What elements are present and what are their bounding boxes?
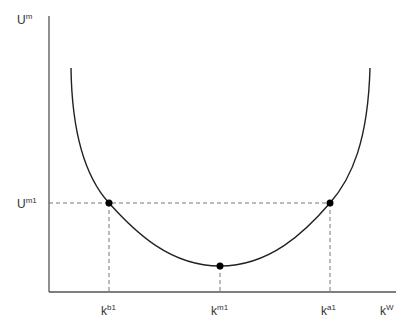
diagram-canvas	[0, 0, 407, 326]
x-tick-sup: b1	[107, 303, 116, 312]
y-tick-um1: Um1	[17, 197, 37, 210]
x-axis-label-sup: W	[386, 303, 394, 312]
x-tick-kb1: kb1	[101, 304, 116, 317]
x-tick-ka1: ka1	[321, 304, 336, 317]
x-tick-sup: a1	[327, 303, 336, 312]
y-tick-base: U	[17, 197, 26, 211]
point-m1	[217, 263, 224, 270]
x-tick-km1: km1	[211, 304, 228, 317]
x-axis-label: kW	[380, 304, 394, 317]
point-b1	[106, 200, 113, 207]
y-axis-label-base: U	[17, 13, 26, 27]
x-tick-sup: m1	[217, 303, 228, 312]
y-axis-label-sup: m	[26, 12, 33, 21]
point-a1	[327, 200, 334, 207]
y-tick-sup: m1	[26, 196, 37, 205]
y-axis-label: Um	[17, 13, 32, 26]
utility-curve	[71, 68, 370, 266]
